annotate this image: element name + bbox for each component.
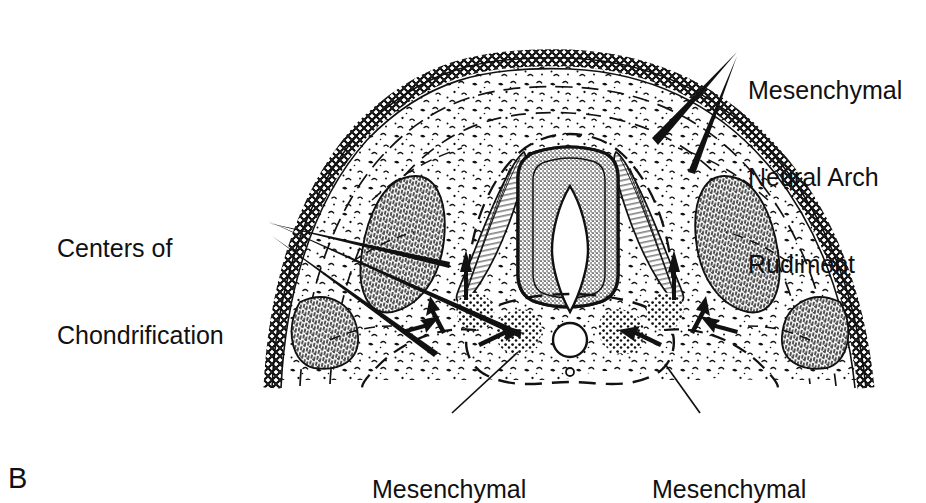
label-mesenchymal-costal-process: Mesenchymal Costal Process [652,417,820,503]
label-line: Mesenchymal [748,76,902,105]
label-line: Neural Arch [748,163,902,192]
label-line: Mesenchymal [652,475,820,503]
figure-canvas: Mesenchymal Neural Arch Rudiment Centers… [0,0,926,503]
label-line: Chondrification [57,321,224,350]
panel-letter: B [8,462,27,494]
label-mesenchymal-vertebral-centrum: Mesenchymal Vertebral Centrum [372,417,526,503]
label-line: Centers of [57,234,224,263]
label-line: Mesenchymal [372,475,526,503]
label-centers-of-chondrification: Centers of Chondrification [57,176,224,408]
label-mesenchymal-neural-arch-rudiment: Mesenchymal Neural Arch Rudiment [748,18,902,337]
notochord [553,323,587,357]
label-line: Rudiment [748,250,902,279]
